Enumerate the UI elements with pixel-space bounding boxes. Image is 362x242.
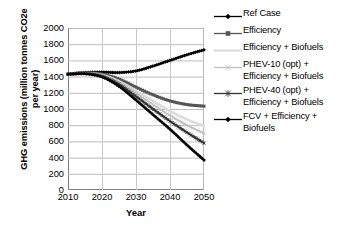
- legend-item[interactable]: FCV + Efficiency +Biofuels: [213, 111, 361, 134]
- y-tick-label: 400: [48, 153, 64, 163]
- series-layer: [68, 28, 204, 190]
- legend-item[interactable]: PHEV-10 (opt) +Efficiency + Biofuels: [213, 59, 361, 82]
- legend-marker-square-icon: [213, 26, 243, 39]
- legend-item[interactable]: Efficiency: [213, 25, 361, 39]
- legend-marker-diamond-icon: [213, 112, 243, 125]
- series-4: [67, 72, 206, 145]
- legend-label-line1: FCV + Efficiency +: [243, 111, 317, 121]
- x-axis-tick-labels: 20102020203020402050: [68, 192, 204, 206]
- x-tick-label: 2050: [194, 192, 215, 202]
- legend-label-line1: PHEV-40 (opt) +: [243, 85, 309, 95]
- data-point-marker: [226, 31, 231, 36]
- legend-marker-asterisk-icon: [213, 86, 243, 99]
- legend-label-line1: Ref Case: [243, 8, 281, 18]
- legend-label-line1: Efficiency + Biofuels: [243, 42, 323, 52]
- legend-label: FCV + Efficiency +Biofuels: [243, 111, 317, 134]
- data-point-marker: [225, 117, 231, 123]
- legend-item[interactable]: Efficiency + Biofuels: [213, 42, 361, 56]
- series-5: [66, 72, 206, 162]
- legend-marker-diamond-icon: [213, 9, 243, 22]
- legend-label-line2: Efficiency + Biofuels: [243, 71, 323, 81]
- y-tick-label: 600: [48, 136, 64, 146]
- y-tick-label: 800: [48, 120, 64, 130]
- y-tick-label: 1000: [43, 104, 64, 114]
- legend-label: Efficiency: [243, 25, 281, 37]
- y-tick-label: 200: [48, 169, 64, 179]
- legend-label: PHEV-10 (opt) +Efficiency + Biofuels: [243, 59, 323, 82]
- x-tick-label: 2040: [160, 192, 181, 202]
- chart-legend: Ref CaseEfficiencyEfficiency + BiofuelsP…: [213, 8, 361, 137]
- y-tick-label: 2000: [43, 23, 64, 33]
- data-point-marker: [225, 14, 231, 20]
- y-tick-label: 1200: [43, 88, 64, 98]
- data-point-marker: [203, 105, 206, 108]
- legend-item[interactable]: PHEV-40 (opt) +Efficiency + Biofuels: [213, 85, 361, 108]
- legend-label-line2: Biofuels: [243, 123, 275, 133]
- y-axis-tick-labels: 0200400600800100012001400160018002000: [26, 28, 64, 190]
- legend-label-line2: Efficiency + Biofuels: [243, 97, 323, 107]
- x-axis-title: Year: [68, 207, 204, 218]
- chart-figure: GHG emissions (million tonnes CO2e per y…: [0, 0, 362, 242]
- legend-label: PHEV-40 (opt) +Efficiency + Biofuels: [243, 85, 323, 108]
- y-tick-label: 1400: [43, 72, 64, 82]
- legend-label: Efficiency + Biofuels: [243, 42, 323, 54]
- y-tick-label: 1600: [43, 55, 64, 65]
- legend-label-line1: PHEV-10 (opt) +: [243, 59, 309, 69]
- y-tick-label: 1800: [43, 39, 64, 49]
- x-tick-label: 2030: [126, 192, 147, 202]
- plot-area: [68, 28, 204, 190]
- legend-label: Ref Case: [243, 8, 281, 20]
- legend-item[interactable]: Ref Case: [213, 8, 361, 22]
- x-tick-label: 2020: [92, 192, 113, 202]
- legend-label-line1: Efficiency: [243, 25, 281, 35]
- x-tick-label: 2010: [58, 192, 79, 202]
- legend-marker-none-icon: [213, 43, 243, 56]
- legend-marker-x-icon: [213, 60, 243, 73]
